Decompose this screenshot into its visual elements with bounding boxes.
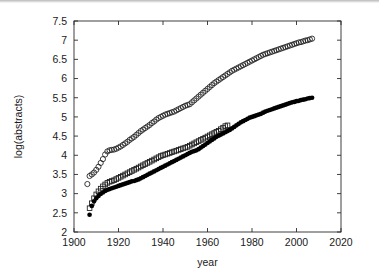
y-tick-label: 7	[61, 34, 67, 46]
x-tick-label: 2000	[285, 236, 309, 248]
scatter-plot: 1900192019401960198020002020 22.533.544.…	[0, 0, 379, 280]
y-tick-label: 3.5	[52, 168, 67, 180]
y-tick-label: 6	[61, 72, 67, 84]
data-series-group	[85, 36, 315, 217]
y-axis-title: log(abstracts)	[12, 95, 24, 159]
data-point-filled-circle	[89, 204, 94, 209]
x-tick-label: 2020	[329, 236, 353, 248]
data-point-filled-circle	[87, 212, 92, 217]
x-tick-label: 1960	[196, 236, 220, 248]
plot-frame	[74, 21, 341, 232]
y-tick-label: 4.5	[52, 130, 67, 142]
y-tick-label: 5	[61, 111, 67, 123]
x-tick-label: 1980	[240, 236, 264, 248]
series-filled-circles	[87, 95, 314, 217]
y-tick-label: 7.5	[52, 15, 67, 27]
y-tick-label: 4	[61, 149, 67, 161]
x-tick-label: 1920	[107, 236, 131, 248]
y-tick-label: 6.5	[52, 53, 67, 65]
x-axis-title: year	[197, 256, 218, 268]
data-point-open-circle	[85, 181, 90, 186]
x-tick-label: 1940	[151, 236, 175, 248]
figure-canvas: 1900192019401960198020002020 22.533.544.…	[0, 0, 379, 280]
data-point-filled-circle	[310, 95, 315, 100]
y-tick-label: 2.5	[52, 207, 67, 219]
y-tick-label: 2	[61, 226, 67, 238]
y-tick-label: 5.5	[52, 92, 67, 104]
y-axis-ticks: 22.533.544.555.566.577.5	[52, 15, 341, 238]
series-open-circles	[85, 36, 315, 187]
y-tick-label: 3	[61, 187, 67, 199]
plot-border	[74, 21, 341, 232]
